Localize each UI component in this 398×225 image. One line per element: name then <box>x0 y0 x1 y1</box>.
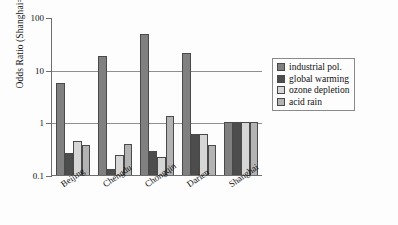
chart-figure: Odds Ratio (Shanghai=1.0) 1001010.1 Beij… <box>0 0 398 225</box>
legend-label: industrial pol. <box>289 62 342 72</box>
legend-swatch-icon <box>277 98 285 106</box>
legend-label: ozone depletion <box>289 85 349 95</box>
bar[interactable] <box>191 134 200 175</box>
legend-label: acid rain <box>289 97 322 107</box>
legend-label: global warming <box>289 74 349 84</box>
bar-group <box>220 18 262 175</box>
plot-area: 1001010.1 <box>51 18 262 176</box>
bar-group <box>94 18 136 175</box>
bar[interactable] <box>224 122 233 175</box>
legend-item[interactable]: industrial pol. <box>277 62 349 72</box>
y-axis-tick-label: 1 <box>40 118 45 128</box>
y-axis-title: Odds Ratio (Shanghai=1.0) <box>15 0 25 110</box>
bar-group <box>178 18 220 175</box>
bar[interactable] <box>140 34 149 175</box>
legend-item[interactable]: global warming <box>277 74 349 84</box>
bar-groups <box>52 18 262 175</box>
y-axis-tick-label: 10 <box>35 66 44 76</box>
y-axis-tick-label: 0.1 <box>33 171 44 181</box>
bar[interactable] <box>233 122 242 175</box>
legend-swatch-icon <box>277 63 285 71</box>
legend-swatch-icon <box>277 86 285 94</box>
legend-item[interactable]: acid rain <box>277 97 349 107</box>
legend: industrial pol.global warmingozone deple… <box>272 58 355 111</box>
bar[interactable] <box>98 56 107 175</box>
y-axis-tick-label: 100 <box>31 13 45 23</box>
legend-item[interactable]: ozone depletion <box>277 85 349 95</box>
y-axis-tick <box>46 176 52 177</box>
bar-group <box>136 18 178 175</box>
legend-swatch-icon <box>277 75 285 83</box>
bar-group <box>52 18 94 175</box>
bar[interactable] <box>56 83 65 175</box>
bar[interactable] <box>182 53 191 175</box>
